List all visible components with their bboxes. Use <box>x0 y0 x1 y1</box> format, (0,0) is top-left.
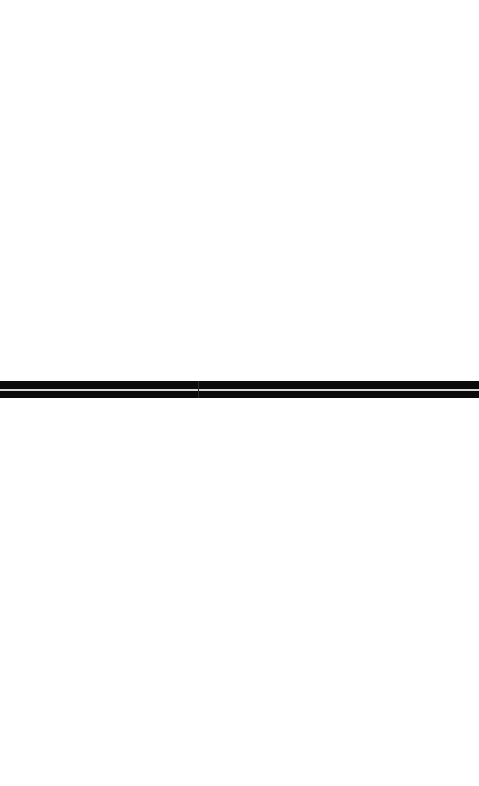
splitter-bar-upper[interactable] <box>0 381 479 389</box>
splitter-bar-lower[interactable] <box>0 391 479 398</box>
top-pane <box>0 0 479 381</box>
splitter-seam <box>198 381 199 398</box>
horizontal-splitter-handle[interactable] <box>0 381 479 398</box>
bottom-pane <box>0 398 479 786</box>
